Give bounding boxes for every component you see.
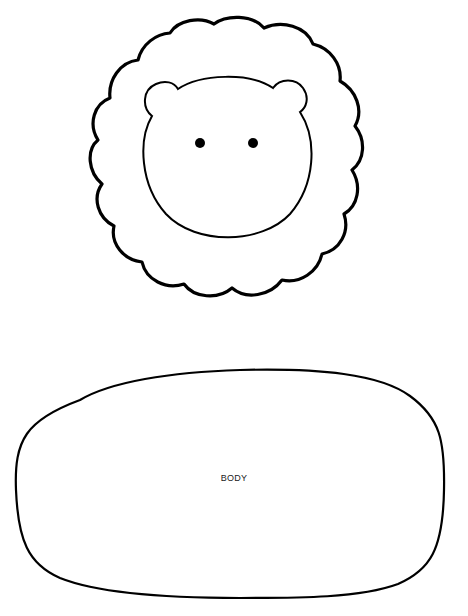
pattern-canvas [0, 0, 468, 616]
face-outline [143, 77, 311, 237]
right-eye [248, 138, 258, 148]
body-outline [16, 370, 444, 598]
body-label: BODY [0, 473, 468, 483]
body-piece [16, 370, 444, 598]
left-eye [195, 138, 205, 148]
lion-head-piece [90, 17, 362, 296]
